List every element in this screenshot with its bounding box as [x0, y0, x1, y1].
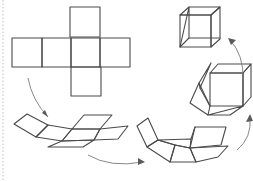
almost-cube: [190, 63, 251, 115]
mostly-folded-net-face-5: [190, 127, 226, 148]
partially-folded-net: [14, 114, 128, 147]
arrow-stage4-to-cube-curve: [230, 40, 243, 80]
partially-folded-net-face-1: [36, 125, 72, 141]
finished-cube-face-3: [180, 7, 189, 47]
arrow-stage3-to-stage4-head: [246, 114, 253, 122]
flat-cross-net-face-2: [42, 38, 71, 67]
flat-cross-net-face-1: [12, 38, 42, 67]
finished-cube-face-1: [180, 7, 220, 15]
flat-cross-net-face-4: [100, 38, 130, 67]
mostly-folded-net: [137, 118, 228, 162]
flat-cross-net-face-0: [70, 7, 100, 37]
almost-cube-face-6: [208, 106, 243, 115]
arrow-stage4-to-cube-head: [228, 38, 236, 45]
mostly-folded-net-face-4: [190, 146, 228, 162]
partially-folded-net-face-0: [14, 114, 48, 137]
folding-stages: [12, 7, 251, 162]
flat-cross-net-face-5: [71, 67, 101, 96]
flat-cross-net-face-3: [71, 38, 100, 67]
almost-cube-face-2: [243, 64, 251, 106]
arrow-stage2-to-stage3-icon: [88, 155, 145, 165]
partially-folded-net-face-4: [94, 126, 128, 140]
finished-cube: [180, 7, 220, 47]
almost-cube-face-5: [200, 88, 210, 106]
finished-cube-face-2: [211, 7, 220, 47]
almost-cube-face-4: [199, 63, 211, 88]
arrow-stage2-to-stage3-curve: [88, 155, 143, 164]
arrow-stage4-to-cube-icon: [228, 38, 243, 80]
arrow-net-to-stage2-icon: [28, 78, 48, 117]
arrow-stage2-to-stage3-head: [138, 158, 145, 165]
partially-folded-net-face-2: [72, 115, 112, 129]
arrow-stage3-to-stage4-curve: [237, 117, 250, 150]
partially-folded-net-face-5: [48, 140, 94, 147]
arrow-stage3-to-stage4-icon: [237, 114, 253, 150]
flat-cross-net: [12, 7, 130, 96]
cube-folding-diagram: [0, 0, 253, 181]
almost-cube-face-0: [210, 73, 243, 106]
